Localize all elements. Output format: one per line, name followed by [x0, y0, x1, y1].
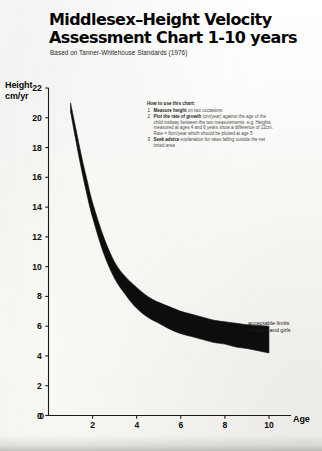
how-to-heading: How to use this chart: — [147, 101, 275, 107]
y-tick-label: 2 — [20, 381, 42, 391]
how-to-list: 1Measure height on two occasions2Plot th… — [147, 108, 275, 148]
band-annotation: acceptable limits for boys and girls — [248, 320, 291, 333]
x-tick-label: 8 — [218, 420, 232, 430]
how-to-item-text: on two occasions — [187, 108, 223, 113]
how-to-item: 1Measure height on two occasions — [147, 108, 275, 114]
y-tick-label: 6 — [20, 321, 42, 331]
how-to-item-emphasis: Plot the rate of growth — [154, 114, 202, 119]
y-tick-label: 8 — [20, 291, 42, 301]
how-to-use-block: How to use this chart: 1Measure height o… — [147, 101, 275, 149]
how-to-item: 3Seek advice explanation for rates falli… — [147, 137, 275, 148]
how-to-item-emphasis: Seek advice — [154, 137, 180, 142]
y-tick-label: 16 — [20, 172, 42, 182]
chart-subtitle: Based on Tanner-Whitehouse Standards (19… — [50, 49, 187, 56]
y-tick-label: 14 — [20, 202, 42, 212]
title-block: Middlesex–Height Velocity Assessment Cha… — [49, 11, 305, 47]
y-tick-label: 18 — [20, 143, 42, 153]
chart-title-line-2: Assessment Chart 1-10 years — [49, 29, 297, 47]
x-axis-title: Age — [293, 414, 310, 424]
band-annotation-line-2: for boys and girls — [248, 327, 291, 334]
band-annotation-line-1: acceptable limits — [248, 320, 291, 327]
y-tick-label: 10 — [20, 262, 42, 272]
x-tick-label: 2 — [86, 420, 100, 430]
y-tick-label: 12 — [20, 232, 42, 242]
paper-background — [0, 0, 322, 451]
x-tick-label: 4 — [130, 420, 144, 430]
x-tick-label: 0 — [35, 411, 49, 421]
how-to-item: 2Plot the rate of growth (cm/year) again… — [147, 114, 275, 136]
how-to-item-emphasis: Measure height — [154, 108, 187, 113]
y-tick-label: 20 — [20, 113, 42, 123]
y-tick-label: 4 — [20, 351, 42, 361]
chart-title-line-1: Middlesex–Height Velocity — [49, 11, 297, 29]
x-tick-label: 6 — [174, 420, 188, 430]
y-tick-label: 22 — [20, 83, 42, 93]
how-to-item-number: 1 — [148, 108, 151, 114]
x-tick-label: 10 — [262, 420, 276, 430]
how-to-item-number: 3 — [148, 137, 151, 143]
how-to-item-number: 2 — [148, 114, 151, 120]
